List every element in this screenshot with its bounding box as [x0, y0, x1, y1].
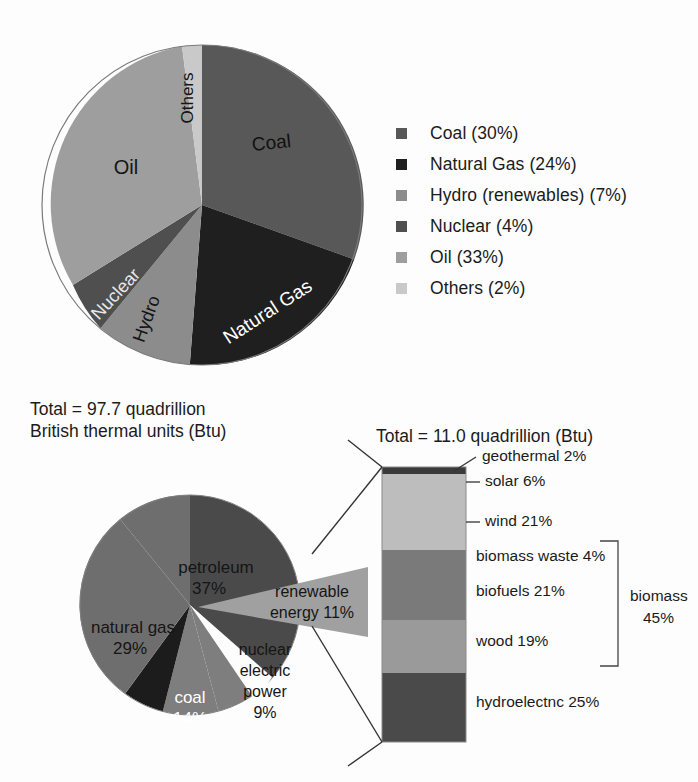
pie2-label-natural-gas-pct: 29% [113, 639, 147, 658]
pie2-label-nuclear-pct: 9% [253, 704, 276, 721]
legend-item-label: Coal (30%) [430, 123, 519, 144]
figure-canvas: Coal Natural Gas Hydro Nuclear Oil Other… [0, 0, 698, 782]
legend-item[interactable]: Coal (30%) [396, 118, 696, 149]
top-pie-chart: Coal Natural Gas Hydro Nuclear Oil Other… [28, 30, 378, 380]
stacked-bar-chart: geothermal 2% solar 6% wind 21% biomass … [330, 440, 698, 770]
top-pie-label-others: Others [178, 72, 197, 123]
top-pie-label-coal: Coal [251, 130, 292, 155]
legend-item[interactable]: Natural Gas (24%) [396, 149, 696, 180]
legend-swatch-icon [396, 159, 407, 170]
legend-swatch-icon [396, 221, 407, 232]
pie2-label-coal: coal [174, 688, 205, 707]
callout-line-top [348, 440, 382, 467]
legend-item[interactable]: Hydro (renewables) (7%) [396, 180, 696, 211]
legend: Coal (30%) Natural Gas (24%) Hydro (rene… [396, 118, 696, 304]
pie2-label-nuclear-3: power [243, 683, 287, 700]
bar-label-wood: wood 19% [475, 632, 549, 649]
bar-label-wind: wind 21% [484, 512, 552, 529]
legend-item-label: Hydro (renewables) (7%) [430, 185, 627, 206]
pie2-label-petroleum: petroleum [178, 558, 254, 577]
legend-swatch-icon [396, 252, 407, 263]
bar-segment-wind[interactable] [382, 491, 466, 550]
pie2-label-coal-pct: 14% [173, 709, 207, 728]
legend-item[interactable]: Others (2%) [396, 273, 696, 304]
caption-line-1: Total = 97.7 quadrillion [30, 398, 226, 420]
pie2-label-nuclear-2: electric [240, 662, 291, 679]
bar-segment-biomass-waste[interactable] [382, 550, 466, 561]
legend-item-label: Oil (33%) [430, 247, 504, 268]
bar-segment-biofuels[interactable] [382, 561, 466, 620]
legend-swatch-icon [396, 283, 407, 294]
bar-label-biofuels: biofuels 21% [476, 582, 565, 599]
top-pie-label-oil: Oil [114, 156, 138, 178]
legend-item-label: Others (2%) [430, 278, 525, 299]
legend-swatch-icon [396, 190, 407, 201]
legend-swatch-icon [396, 128, 407, 139]
bracket-label-biomass-pct: 45% [643, 609, 674, 626]
bar-label-geothermal: geothermal 2% [482, 447, 586, 464]
legend-item-label: Natural Gas (24%) [430, 154, 577, 175]
pie2-label-natural-gas: natural gas [91, 618, 175, 637]
caption-line-2: British thermal units (Btu) [30, 420, 226, 442]
bottom-pie-chart: petroleum 37% natural gas 29% coal 14% n… [20, 455, 370, 765]
bar-segment-solar[interactable] [382, 474, 466, 491]
bar-segment-hydroelectric[interactable] [382, 673, 466, 742]
bar-label-hydroelectric: hydroelectnc 25% [476, 693, 599, 710]
bar-segment-wood[interactable] [382, 620, 466, 673]
callout-line-bottom [348, 742, 382, 766]
legend-item[interactable]: Nuclear (4%) [396, 211, 696, 242]
legend-item-label: Nuclear (4%) [430, 216, 533, 237]
pie2-label-nuclear-1: nuclear [239, 641, 292, 658]
bar-segment-geothermal[interactable] [382, 467, 466, 474]
bar-label-biomass-waste: biomass waste 4% [476, 547, 605, 564]
pie2-label-petroleum-pct: 37% [192, 579, 226, 598]
bracket-label-biomass: biomass [630, 587, 688, 604]
left-chart-caption: Total = 97.7 quadrillion British thermal… [30, 398, 226, 442]
legend-item[interactable]: Oil (33%) [396, 242, 696, 273]
bar-label-solar: solar 6% [485, 472, 546, 489]
